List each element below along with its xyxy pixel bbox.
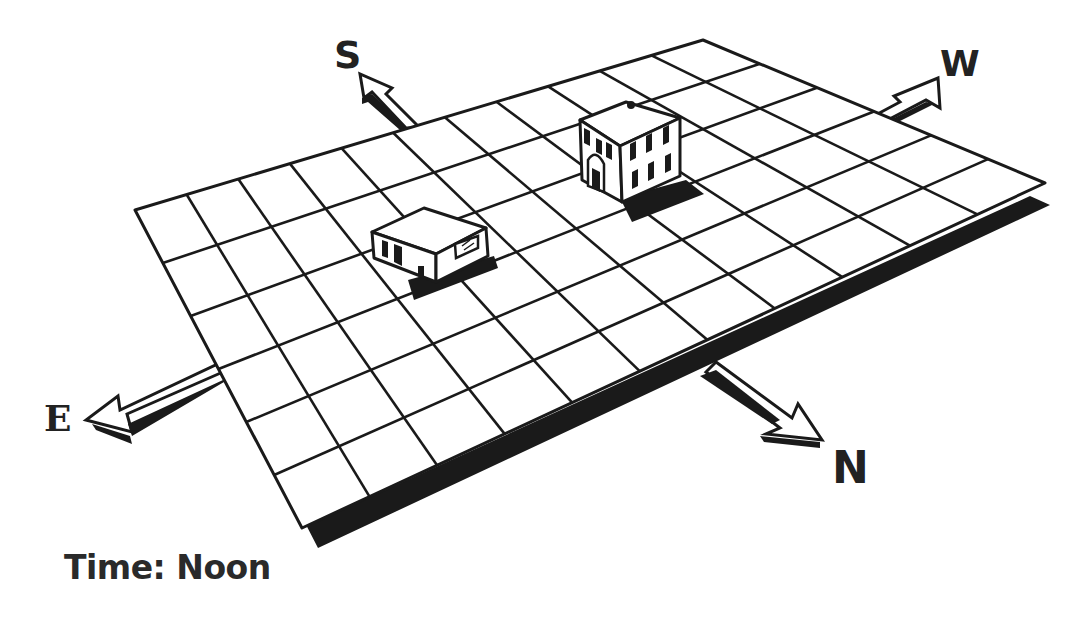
compass-label-south: S bbox=[334, 36, 361, 74]
north-arrow-icon bbox=[700, 362, 822, 448]
south-arrow-icon bbox=[360, 74, 420, 130]
compass-label-west: W bbox=[940, 46, 980, 82]
time-caption: Time: Noon bbox=[64, 548, 271, 587]
east-arrow-icon bbox=[86, 362, 238, 444]
map-diagram bbox=[0, 0, 1087, 618]
compass-label-north: N bbox=[832, 446, 869, 490]
compass-label-east: E bbox=[44, 400, 71, 436]
